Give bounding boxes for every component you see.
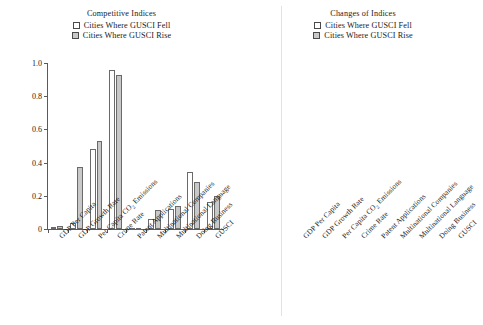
y-axis-tick (44, 63, 48, 64)
bar-fell (148, 219, 154, 229)
x-axis-label: GDP Growth Rate (320, 195, 366, 241)
x-axis-label: Per Capita CO2 Emissions (340, 177, 404, 241)
bar-rise (175, 206, 181, 229)
legend-item-rise: Cities Where GUSCI Rise (72, 31, 171, 40)
y-axis-tick-label: 0.8 (32, 92, 42, 101)
y-axis-tick-label: 0 (38, 225, 42, 234)
x-axis-tick (185, 229, 186, 233)
x-axis-label: GUSCI (456, 218, 478, 240)
bar-fell (109, 70, 115, 229)
y-axis-tick (44, 129, 48, 130)
bar-rise (194, 182, 200, 229)
legend-swatch-white-icon (314, 22, 321, 29)
dual-bar-chart-figure: Competitive Indices Cities Where GUSCI F… (0, 0, 483, 325)
bar-rise (136, 228, 142, 230)
bar-rise (155, 210, 161, 229)
legend-right: Cities Where GUSCI Fell Cities Where GUS… (243, 21, 483, 40)
bar-fell (207, 202, 213, 229)
y-axis-tick (44, 96, 48, 97)
panel-competitive-indices: Competitive Indices Cities Where GUSCI F… (0, 0, 243, 325)
legend-label-fell: Cities Where GUSCI Fell (84, 21, 171, 30)
legend-item-fell: Cities Where GUSCI Fell (314, 21, 412, 30)
x-axis-tick (165, 229, 166, 233)
x-axis-tick (68, 229, 69, 233)
x-axis-label: Multinational Language (417, 182, 475, 240)
bar-fell (129, 228, 135, 230)
y-axis-tick (44, 196, 48, 197)
bar-rise (57, 226, 63, 229)
legend-item-fell: Cities Where GUSCI Fell (73, 21, 171, 30)
bar-fell (51, 227, 57, 229)
bar-rise (116, 75, 122, 229)
legend-label-fell: Cities Where GUSCI Fell (325, 21, 412, 30)
bar-fell (187, 172, 193, 229)
bar-fell (90, 149, 96, 229)
y-axis-tick (44, 163, 48, 164)
x-axis-tick (204, 229, 205, 233)
bar-rise (97, 141, 103, 229)
chart-title-right: Changes of Indices (243, 9, 483, 18)
bar-rise (214, 196, 220, 229)
legend-label-rise: Cities Where GUSCI Rise (324, 31, 412, 40)
x-axis-label: Doing Business (437, 200, 477, 240)
y-axis-tick-label: 0.4 (32, 158, 42, 167)
chart-title-left: Competitive Indices (0, 9, 243, 18)
x-axis-tick (146, 229, 147, 233)
legend-item-rise: Cities Where GUSCI Rise (313, 31, 412, 40)
x-axis-label: Patent Applications (379, 192, 428, 241)
x-axis-label: Multinational Companies (398, 179, 459, 240)
legend-swatch-gray-icon (313, 32, 320, 39)
legend-label-rise: Cities Where GUSCI Rise (83, 31, 171, 40)
plot-area-left: 00.20.40.60.81.0 (47, 63, 224, 229)
x-axis-label: Crime Rate (359, 209, 390, 240)
y-axis-tick-label: 0.6 (32, 125, 42, 134)
x-axis-tick (87, 229, 88, 233)
legend-left: Cities Where GUSCI Fell Cities Where GUS… (0, 21, 243, 40)
legend-swatch-white-icon (73, 22, 80, 29)
x-axis-tick (107, 229, 108, 233)
x-axis-tick (48, 229, 49, 233)
bar-fell (168, 209, 174, 229)
bar-fell (70, 223, 76, 229)
x-axis-labels-right: GDP Per CapitaGDP Growth RatePer Capita … (243, 0, 483, 325)
bar-rise (77, 167, 83, 229)
x-axis-tick (126, 229, 127, 233)
legend-swatch-gray-icon (72, 32, 79, 39)
panel-changes-of-indices: Changes of Indices Cities Where GUSCI Fe… (243, 0, 483, 325)
y-axis-tick-label: 1.0 (32, 59, 42, 68)
x-axis-label: GDP Per Capita (301, 200, 342, 241)
y-axis-tick-label: 0.2 (32, 191, 42, 200)
